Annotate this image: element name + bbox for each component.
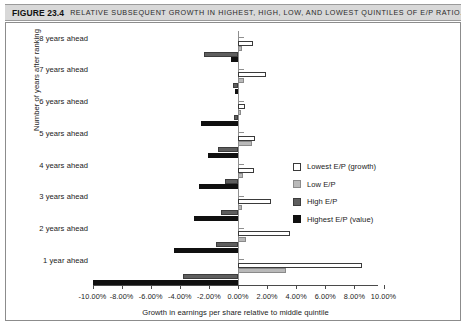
bar [238,78,244,83]
bar [235,89,238,94]
x-tick [267,285,268,289]
bar [225,179,238,184]
x-tick [325,285,326,289]
figure-number: FIGURE 23.4 [12,8,64,18]
x-tick [122,285,123,289]
x-tick [238,285,239,289]
category-label: 6 years ahead [39,97,88,106]
bar [218,147,238,152]
x-tick-label: 10.00% [371,292,396,301]
legend-swatch-icon [293,180,301,188]
legend-label: Lowest E/P (growth) [307,162,376,171]
x-tick-label: -10.00% [79,292,107,301]
bar [238,110,241,115]
legend-label: Low E/P [307,180,336,189]
figure-title: Relative subsequent growth in highest, h… [70,8,461,17]
bar [183,274,238,279]
x-axis-line [94,285,378,286]
bar [238,168,254,173]
bar [238,41,253,46]
y-tick [238,228,244,229]
bar [238,104,245,109]
bar [234,115,238,120]
bar [231,57,238,62]
y-tick [238,259,244,260]
x-tick-label: 8.00% [344,292,365,301]
category-label: 4 years ahead [39,161,88,170]
bar [238,136,255,141]
bar [238,46,242,51]
bar [208,153,238,158]
bar [238,231,290,236]
legend-label: High E/P [307,197,337,206]
legend-item[interactable]: Low E/P [293,180,428,189]
bar [238,268,286,273]
x-tick-label: -6.00% [139,292,163,301]
x-tick-label: 4.00% [286,292,307,301]
legend-label: Highest E/P (value) [307,215,373,224]
y-tick [238,69,244,70]
bar [238,205,242,210]
x-tick [93,285,94,289]
x-tick [180,285,181,289]
x-tick-label: 6.00% [315,292,336,301]
x-tick-label: -2.00% [197,292,221,301]
bar [216,242,238,247]
x-tick [384,285,385,289]
y-tick [238,196,244,197]
bar [238,72,266,77]
legend-item[interactable]: High E/P [293,197,428,206]
category-label: 5 years ahead [39,129,88,138]
x-tick [296,285,297,289]
bar [194,216,238,221]
bar [93,280,239,285]
figure-caption-bar: FIGURE 23.4 Relative subsequent growth i… [5,4,461,21]
bar [238,263,362,268]
category-label: 1 year ahead [43,256,88,265]
legend-item[interactable]: Highest E/P (value) [293,215,428,224]
x-tick [209,285,210,289]
category-label: 3 years ahead [39,192,88,201]
category-label: 8 years ahead [39,34,88,43]
legend-swatch-icon [293,163,301,171]
x-tick-label: -4.00% [168,292,192,301]
bar [201,121,238,126]
x-tick-label: -8.00% [110,292,134,301]
bar [238,237,246,242]
bar [238,173,243,178]
x-tick [151,285,152,289]
x-tick-label: 0.00% [227,292,248,301]
bar [238,141,252,146]
x-tick-label: 2.00% [256,292,277,301]
legend-swatch-icon [293,215,301,223]
y-tick [238,101,244,102]
bar [238,199,271,204]
bar [199,184,238,189]
bar [174,248,238,253]
y-axis-title: Number of years after ranking [32,29,41,131]
bar [233,83,238,88]
y-tick [238,164,244,165]
x-axis-title: Growth in earnings per share relative to… [90,308,381,317]
bar [204,52,238,57]
chart-legend: Lowest E/P (growth)Low E/PHigh E/PHighes… [293,162,428,232]
legend-item[interactable]: Lowest E/P (growth) [293,162,428,171]
y-tick [238,132,244,133]
chart-frame: Number of years after ranking -10.00%-8.… [5,22,461,321]
y-tick [238,37,244,38]
category-label: 7 years ahead [39,65,88,74]
legend-swatch-icon [293,198,301,206]
category-label: 2 years ahead [39,224,88,233]
bar [221,210,238,215]
x-tick [354,285,355,289]
